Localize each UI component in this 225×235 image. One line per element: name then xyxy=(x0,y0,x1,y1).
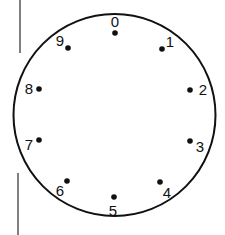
dial-position-6: 6 xyxy=(56,178,70,199)
dial-position-7: 7 xyxy=(25,136,42,153)
dial-position-2: 2 xyxy=(187,81,207,98)
dial-position-1: 1 xyxy=(159,33,174,52)
dial-diagram: 0123456789 xyxy=(0,0,225,235)
position-label: 8 xyxy=(25,80,33,97)
dial-position-9: 9 xyxy=(56,32,71,51)
dial-canvas: 0123456789 xyxy=(0,0,225,235)
position-dot xyxy=(187,87,193,93)
position-label: 5 xyxy=(109,202,117,219)
position-label: 2 xyxy=(199,81,207,98)
dial-position-0: 0 xyxy=(111,13,119,36)
dial-position-8: 8 xyxy=(25,80,42,97)
position-dot xyxy=(187,138,193,144)
position-label: 3 xyxy=(196,138,204,155)
position-dot xyxy=(64,178,70,184)
position-dot xyxy=(159,46,165,52)
position-dot xyxy=(112,30,118,36)
dial-position-4: 4 xyxy=(157,179,171,201)
position-label: 9 xyxy=(56,32,64,49)
position-label: 1 xyxy=(166,33,174,50)
position-dot xyxy=(111,194,117,200)
position-dot xyxy=(36,137,42,143)
side-margin-lines xyxy=(18,0,20,235)
dial-position-3: 3 xyxy=(187,138,204,155)
position-dot xyxy=(36,86,42,92)
position-label: 4 xyxy=(163,184,171,201)
position-dot xyxy=(65,45,71,51)
position-label: 0 xyxy=(111,13,119,30)
position-label: 6 xyxy=(56,182,64,199)
position-label: 7 xyxy=(25,136,33,153)
dial-positions: 0123456789 xyxy=(25,13,207,219)
dial-position-5: 5 xyxy=(109,194,117,219)
dial-outline xyxy=(14,14,216,216)
